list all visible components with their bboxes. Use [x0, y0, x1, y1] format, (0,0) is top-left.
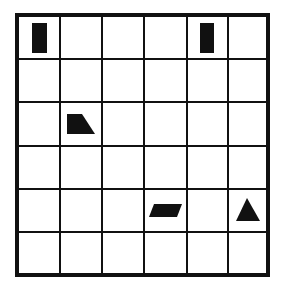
parallelogram-shape-r5c4 [149, 204, 182, 217]
shape-grid-diagram [0, 0, 283, 291]
trapezoid-shape-r3c2 [67, 114, 95, 134]
rectangle-shape-r1c5 [200, 23, 214, 53]
triangle-shape-r5c6 [236, 198, 260, 221]
grid-lines [15, 13, 270, 277]
shapes-layer [32, 23, 260, 221]
rectangle-shape-r1c1 [32, 23, 47, 53]
